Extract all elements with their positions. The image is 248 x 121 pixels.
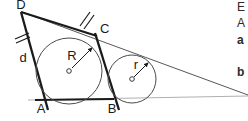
radius-label-r: r	[134, 57, 139, 72]
segment-AB	[35, 99, 114, 100]
side-text-line-2: A	[237, 16, 245, 30]
figure-canvas: D C A B d R r E A a b	[0, 0, 248, 121]
vertex-label-A: A	[37, 101, 46, 116]
tick-on-DC	[80, 12, 94, 29]
side-text-line-3: a	[237, 33, 244, 47]
radius-label-R: R	[67, 48, 76, 63]
ray-D-through-C	[22, 12, 248, 95]
vertex-label-D: D	[16, 0, 25, 12]
incircle-center-dot	[67, 69, 72, 74]
side-text-line-4: b	[237, 65, 244, 79]
excircle-center-dot	[130, 77, 135, 82]
side-label-d: d	[19, 50, 26, 65]
vertex-label-C: C	[100, 21, 109, 36]
geometry-figure: D C A B d R r E A a b	[0, 0, 248, 121]
side-text-line-1: E	[237, 0, 245, 14]
vertex-label-B: B	[108, 101, 117, 116]
segment-DC	[21, 12, 97, 36]
